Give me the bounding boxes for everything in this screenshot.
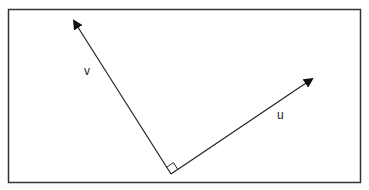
vector-u-label: u [277,108,284,122]
diagram-frame [9,10,361,183]
vector-u-arrow [171,79,312,174]
vector-diagram: v u [0,0,369,190]
vector-v-arrow [74,21,171,174]
vector-v-label: v [84,64,90,78]
right-angle-marker [167,163,178,170]
